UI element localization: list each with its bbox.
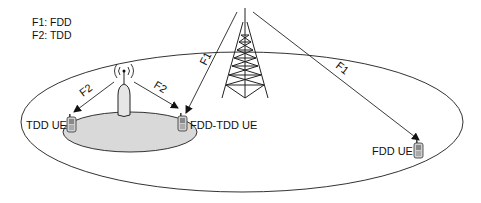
small-cell-icon (115, 64, 134, 117)
fdd-ue-label: FDD UE (372, 145, 413, 157)
link-f1-fdd-tdd-ue (186, 12, 237, 113)
tdd-ue-phone-icon (67, 114, 76, 132)
fdd-tdd-ue-label: FDD-TDD UE (190, 119, 257, 131)
network-diagram: F1 F1 F2 F2 TDD UE FDD-TDD UE FDD UE (0, 0, 481, 203)
link-f1-fdd-ue (253, 12, 419, 140)
label-f1-right: F1 (334, 59, 352, 76)
label-f2-right: F2 (152, 78, 169, 95)
tdd-ue-label: TDD UE (26, 119, 67, 131)
fdd-tdd-ue-phone-icon (178, 113, 187, 131)
macro-tower-icon (222, 8, 268, 98)
small-cell-coverage (63, 112, 197, 152)
fdd-ue-phone-icon (414, 140, 423, 158)
label-f2-left: F2 (77, 81, 94, 98)
